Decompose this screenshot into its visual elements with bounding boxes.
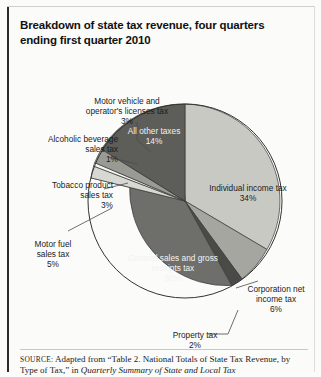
label-percent: 32% (165, 273, 182, 283)
label-alcoholic-beverage-sales-tax: Alcoholic beverage sales tax 1% (8, 134, 118, 165)
label-tobacco-product-sales-tax: Tobacco product sales tax 3% (8, 180, 113, 211)
label-line-2: sales tax (80, 190, 113, 200)
label-line-1: Tobacco product (52, 180, 113, 190)
label-line-1: Corporation net (247, 284, 304, 294)
label-line-1: Motor vehicle and (94, 96, 160, 106)
label-percent: 3% (121, 116, 133, 126)
label-percent: 6% (270, 304, 282, 314)
source-divider (20, 349, 308, 350)
label-general-sales-and-gross-receipts-tax: General sales and gross receipts tax 32% (118, 253, 228, 284)
label-percent: 14% (146, 136, 163, 146)
label-all-other-taxes: All other taxes 14% (108, 126, 200, 146)
label-property-tax: Property tax 2% (148, 330, 242, 350)
source-label: SOURCE: (20, 355, 53, 364)
label-line-1: Motor fuel (35, 239, 72, 249)
label-line-1: General sales and gross (128, 253, 218, 263)
source-note: SOURCE: Adapted from “Table 2. National … (20, 354, 310, 377)
label-line-2: receipts tax (152, 263, 194, 273)
label-percent: 34% (240, 193, 257, 203)
label-percent: 3% (101, 200, 113, 210)
source-publication: Quarterly Summary of State and Local Tax (81, 365, 236, 375)
label-percent: 1% (106, 154, 118, 164)
label-line-2: operator's licenses tax (86, 106, 168, 116)
label-line-1: Property tax (173, 330, 218, 340)
label-line-1: Individual income tax (209, 183, 286, 193)
label-line-1: All other taxes (128, 126, 181, 136)
label-line-2: income tax (256, 294, 296, 304)
label-motor-vehicle-licenses-tax: Motor vehicle and operator's licenses ta… (66, 96, 188, 127)
label-line-2: sales tax (37, 249, 70, 259)
label-percent: 5% (47, 259, 59, 269)
leader-line-motor-fuel (68, 208, 112, 231)
label-motor-fuel-sales-tax: Motor fuel sales tax 5% (10, 239, 96, 270)
label-corporation-net-income-tax: Corporation net income tax 6% (238, 284, 314, 315)
figure-container: Breakdown of state tax revenue, four qua… (0, 0, 321, 377)
label-individual-income-tax: Individual income tax 34% (196, 183, 300, 203)
pie-chart: Motor vehicle and operator's licenses ta… (0, 0, 321, 348)
